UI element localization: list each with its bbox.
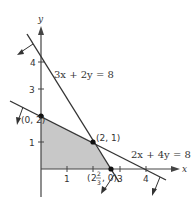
vertex-2-1 (90, 139, 95, 144)
y-axis-label: y (37, 14, 44, 24)
constraint-arrow-icon (152, 188, 157, 196)
x-axis-label: x (182, 164, 187, 174)
lp-diagram: y x 1 3 4 1 3 4 3x + 2y = 8 (0, 0, 192, 203)
y-axis-arrow-icon (38, 26, 44, 35)
vertex-8-3-0 (108, 166, 113, 171)
equation-label-2x-4y: 2x + 4y = 8 (131, 149, 191, 160)
y-tick-3: 3 (29, 85, 35, 95)
vertex-label-2-1: (2, 1) (96, 133, 120, 143)
svg-text:2: 2 (97, 170, 101, 177)
x-axis-arrow-icon (171, 166, 180, 172)
vertex-label-8-3-0: ( 2 2 3 , 0) (87, 170, 117, 186)
constraint-arrow-icon (17, 49, 24, 55)
vertex-label-0-2: (0, 2) (21, 115, 45, 125)
y-tick-1: 1 (29, 138, 35, 148)
x-tick-4: 4 (143, 174, 149, 184)
equation-label-3x-2y: 3x + 2y = 8 (54, 69, 114, 80)
svg-text:(: ( (87, 173, 91, 183)
svg-text:3: 3 (97, 179, 101, 186)
svg-text:, 0): , 0) (102, 173, 117, 183)
svg-text:2: 2 (91, 173, 97, 183)
x-tick-1: 1 (64, 174, 70, 184)
y-tick-4: 4 (30, 58, 36, 68)
